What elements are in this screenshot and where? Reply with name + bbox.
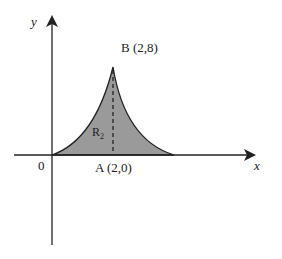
- region-label-main: R: [92, 125, 100, 139]
- diagram: y x 0 B (2,8) A (2,0) R2: [0, 0, 282, 259]
- region-label-subscript: 2: [100, 132, 104, 141]
- x-axis-label: x: [254, 158, 260, 174]
- point-a-label: A (2,0): [95, 160, 132, 176]
- y-axis-label: y: [31, 14, 37, 30]
- diagram-graphics: [0, 0, 282, 259]
- origin-label: 0: [38, 158, 45, 174]
- point-b-label: B (2,8): [121, 40, 158, 56]
- region-label: R2: [92, 125, 104, 141]
